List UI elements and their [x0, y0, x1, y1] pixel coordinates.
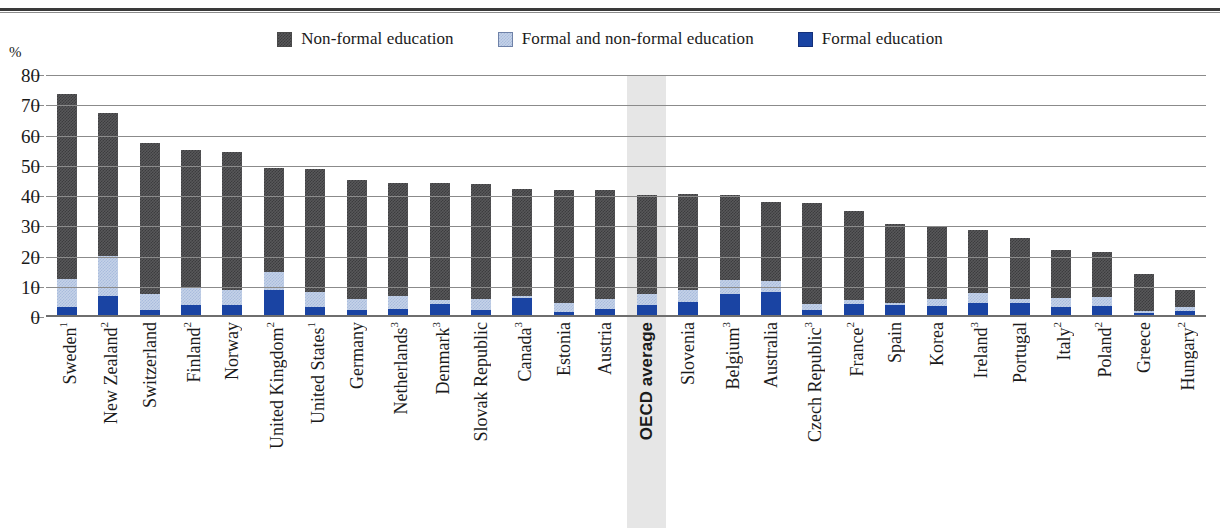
bar-segment-2 — [885, 224, 905, 303]
bar-column[interactable] — [968, 230, 988, 317]
bar-column[interactable] — [927, 226, 947, 317]
bar-segment-2 — [471, 184, 491, 299]
y-axis-unit-label: % — [9, 44, 22, 61]
bar-segment-1 — [305, 292, 325, 307]
y-tick-label-50: 50 — [21, 156, 40, 175]
category-label-united-kingdom: United Kingdom2 — [265, 322, 286, 449]
y-tick-label-80: 80 — [21, 66, 40, 85]
bar-segment-1 — [98, 256, 118, 297]
bar-column[interactable] — [595, 190, 615, 317]
footnote-marker: 3 — [802, 322, 814, 328]
bar-segment-2 — [430, 183, 450, 300]
bar-segment-2 — [1051, 250, 1071, 297]
bar-column[interactable] — [885, 224, 905, 317]
bar-segment-1 — [595, 299, 615, 309]
bar-column[interactable] — [1134, 274, 1154, 317]
category-label-belgium: Belgium3 — [721, 322, 742, 390]
category-label-slovenia: Slovenia — [679, 322, 697, 385]
bar-segment-1 — [637, 294, 657, 305]
category-label-sweden: Sweden1 — [58, 322, 79, 385]
footnote-marker: 2 — [181, 322, 193, 328]
bar-segment-2 — [1134, 274, 1154, 311]
bar-segment-1 — [57, 279, 77, 307]
bar-segment-1 — [140, 294, 160, 310]
bar-segment-2 — [181, 150, 201, 287]
bar-column[interactable] — [761, 202, 781, 317]
gridline-30 — [46, 226, 1206, 227]
bar-segment-1 — [347, 299, 367, 309]
category-label-slovak-republic: Slovak Republic — [472, 322, 490, 442]
bar-segment-1 — [678, 290, 698, 302]
bar-segment-2 — [388, 183, 408, 297]
bar-column[interactable] — [264, 168, 284, 317]
chart-plot-area: 01020304050607080 — [46, 75, 1206, 317]
footnote-marker: 1 — [305, 322, 317, 328]
y-tick-label-20: 20 — [21, 247, 40, 266]
category-label-canada: Canada3 — [513, 322, 534, 381]
gridline-10 — [46, 287, 1206, 288]
footnote-marker: 2 — [1175, 322, 1187, 328]
bar-segment-2 — [512, 189, 532, 296]
category-label-spain: Spain — [886, 322, 904, 363]
legend-item-0[interactable]: Non-formal education — [277, 29, 454, 49]
footnote-marker: 3 — [430, 322, 442, 328]
bar-segment-1 — [222, 290, 242, 305]
bar-column[interactable] — [140, 143, 160, 317]
bar-segment-2 — [761, 202, 781, 281]
top-divider-rule — [0, 8, 1220, 11]
bar-segment-2 — [802, 203, 822, 303]
bar-segment-2 — [1092, 252, 1112, 297]
bar-segment-1 — [181, 287, 201, 305]
category-label-finland: Finland2 — [182, 322, 203, 383]
bar-segment-2 — [1010, 238, 1030, 299]
bar-segment-1 — [1051, 298, 1071, 307]
bar-segment-0 — [264, 290, 284, 317]
bar-segment-2 — [347, 180, 367, 299]
legend-label: Formal education — [822, 29, 943, 49]
legend-item-1[interactable]: Formal and non-formal education — [498, 29, 754, 49]
bar-column[interactable] — [181, 150, 201, 317]
x-axis-baseline — [46, 315, 1206, 317]
chart-legend: Non-formal educationFormal and non-forma… — [0, 26, 1220, 52]
category-label-poland: Poland2 — [1093, 322, 1114, 378]
bar-column[interactable] — [347, 180, 367, 317]
bar-segment-0 — [720, 294, 740, 317]
y-tick-label-0: 0 — [31, 308, 41, 327]
bar-column[interactable] — [471, 184, 491, 317]
bar-column[interactable] — [1010, 238, 1030, 317]
bar-segment-2 — [637, 195, 657, 294]
footnote-marker: 1 — [57, 322, 69, 328]
category-label-netherlands: Netherlands3 — [389, 322, 410, 414]
category-label-australia: Australia — [762, 322, 780, 388]
bar-segment-1 — [471, 299, 491, 310]
bar-segment-2 — [927, 226, 947, 299]
y-tick-label-40: 40 — [21, 187, 40, 206]
bar-segment-2 — [57, 94, 77, 279]
bar-column[interactable] — [554, 190, 574, 317]
legend-label: Formal and non-formal education — [522, 29, 754, 49]
category-label-korea: Korea — [928, 322, 946, 366]
bar-column[interactable] — [1175, 290, 1195, 317]
footnote-marker: 3 — [512, 322, 524, 328]
footnote-marker: 2 — [1051, 322, 1063, 328]
bar-column[interactable] — [512, 189, 532, 317]
bar-column[interactable] — [57, 94, 77, 317]
bar-segment-2 — [222, 152, 242, 290]
bar-column[interactable] — [1092, 252, 1112, 317]
legend-item-2[interactable]: Formal education — [798, 29, 943, 49]
bar-column[interactable] — [430, 183, 450, 317]
footnote-marker: 3 — [720, 322, 732, 328]
category-label-ireland: Ireland3 — [969, 322, 990, 378]
footnote-marker: 2 — [1092, 322, 1104, 328]
bar-column[interactable] — [222, 152, 242, 317]
footnote-marker: 2 — [844, 322, 856, 328]
bar-column[interactable] — [1051, 250, 1071, 317]
y-tick-label-60: 60 — [21, 126, 40, 145]
bar-column[interactable] — [388, 183, 408, 317]
category-label-oecd-average: OECD average — [638, 322, 655, 440]
bar-segment-1 — [388, 296, 408, 308]
bar-column[interactable] — [305, 169, 325, 317]
bar-column[interactable] — [802, 203, 822, 317]
category-label-portugal: Portugal — [1011, 322, 1029, 383]
category-label-czech-republic: Czech Republic3 — [803, 322, 824, 442]
